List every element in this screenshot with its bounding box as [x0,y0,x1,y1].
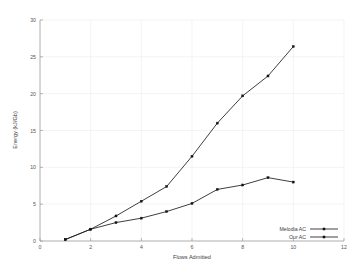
x-axis-title: Flows Admitted [173,254,211,260]
y-axis-title: Energy (kJ/Gb) [12,111,18,149]
data-point-marker [191,202,193,204]
legend-label: Our AC [289,234,306,240]
x-tick-label: 0 [39,244,42,250]
x-tick-label: 12 [341,244,347,250]
data-point-marker [216,122,218,124]
data-point-marker [216,188,218,190]
data-point-marker [267,177,269,179]
data-point-marker [166,210,168,212]
legend-label: Melodia AC [279,226,306,232]
data-point-marker [140,217,142,219]
data-point-marker [242,95,244,97]
x-tick-label: 4 [140,244,143,250]
data-point-marker [90,228,92,230]
y-tick-label: 0 [33,238,36,244]
legend-sample-marker [323,228,325,230]
data-point-marker [64,238,66,240]
y-tick-label: 10 [30,164,36,170]
data-point-marker [115,222,117,224]
x-tick-label: 6 [191,244,194,250]
line-chart: 024681012 051015202530 Melodia ACOur AC … [0,0,355,277]
data-point-marker [191,155,193,157]
data-point-marker [140,200,142,202]
legend-sample-marker [323,236,325,238]
chart-figure: 024681012 051015202530 Melodia ACOur AC … [0,0,355,277]
x-tick-label: 10 [290,244,296,250]
data-point-marker [292,45,294,47]
data-point-marker [292,181,294,183]
y-tick-label: 20 [30,91,36,97]
y-tick-label: 25 [30,54,36,60]
data-point-marker [267,75,269,77]
y-tick-label: 5 [33,201,36,207]
data-point-marker [242,184,244,186]
x-tick-label: 2 [89,244,92,250]
x-tick-label: 8 [241,244,244,250]
data-point-marker [166,185,168,187]
y-tick-label: 30 [30,17,36,23]
data-point-marker [115,215,117,217]
y-tick-label: 15 [30,128,36,134]
